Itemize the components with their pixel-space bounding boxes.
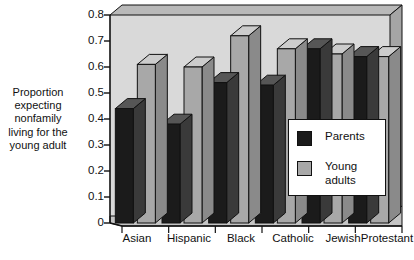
- x-category-label-black: Black: [214, 232, 268, 244]
- x-category-label-catholic: Catholic: [262, 232, 324, 244]
- legend-swatch-parents: [297, 131, 312, 146]
- legend-item-parents: Parents: [297, 130, 365, 146]
- x-category-label-asian: Asian: [110, 232, 164, 244]
- legend-swatch-young-adults: [297, 161, 312, 176]
- x-category-label-hispanic: Hispanic: [158, 232, 220, 244]
- bar-parents-asian: [115, 99, 145, 223]
- legend-label-young-adults: Young adults: [325, 160, 357, 187]
- bar-chart: Proportion expecting nonfamily living fo…: [0, 0, 414, 260]
- legend-item-young-adults: Young adults: [297, 160, 357, 187]
- legend: Parents Young adults: [288, 119, 386, 196]
- legend-label-parents: Parents: [325, 130, 365, 144]
- plot-top-slab: [110, 5, 402, 15]
- x-category-label-protestant: Protestant: [360, 232, 414, 244]
- y-ticks-group: [104, 15, 110, 223]
